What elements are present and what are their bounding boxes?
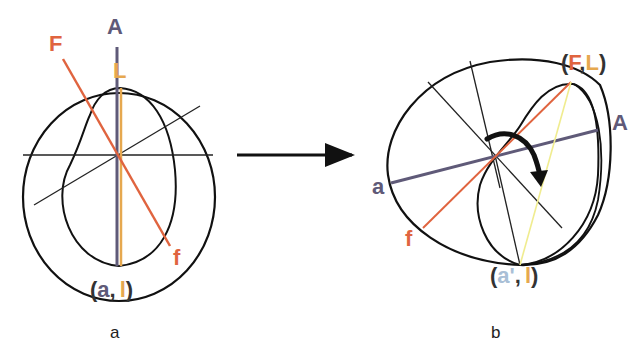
axis-F-b xyxy=(423,82,571,228)
bottom-label-a: (a,l) xyxy=(90,277,133,302)
label-F-a: F xyxy=(49,31,62,56)
outer-outline-b xyxy=(387,59,610,265)
label-f-a: f xyxy=(173,245,181,270)
label-f-b: f xyxy=(405,226,413,251)
label-a-b: a xyxy=(372,174,385,199)
label-A-b: A xyxy=(612,110,628,135)
diagram-canvas: A F L f (a,l) a (F,L) A a xyxy=(0,0,642,364)
spoke-line-3 xyxy=(495,155,520,265)
spoke-line-1 xyxy=(470,61,500,188)
panel-b: (F,L) A a f (a',l) b xyxy=(372,50,628,342)
outer-outline-a xyxy=(23,93,215,301)
caption-b: b xyxy=(491,323,500,342)
label-A-a: A xyxy=(107,14,123,39)
inner-shape-a xyxy=(62,88,175,266)
bottom-label-b: (a',l) xyxy=(490,263,538,288)
panel-a: A F L f (a,l) a xyxy=(23,14,215,342)
rotation-arrowhead-icon xyxy=(530,170,548,187)
label-L-a: L xyxy=(113,58,126,83)
caption-a: a xyxy=(110,323,120,342)
top-label-b: (F,L) xyxy=(561,50,606,75)
